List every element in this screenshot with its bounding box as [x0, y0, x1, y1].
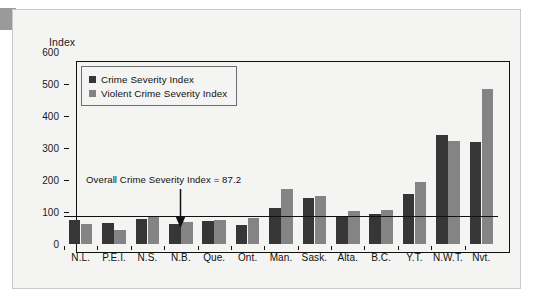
- y-axis-tick-label: 400: [29, 111, 59, 122]
- x-axis-tick-mark: [431, 246, 432, 250]
- x-axis-tick-mark: [364, 246, 365, 250]
- bar: [214, 220, 226, 244]
- bar: [448, 141, 460, 244]
- x-axis-tick-label: Alta.: [338, 252, 359, 263]
- reference-line: [64, 216, 498, 217]
- x-axis-tick-label: P.E.I.: [102, 252, 126, 263]
- x-axis-tick-label: N.L.: [71, 252, 90, 263]
- x-axis-tick-label: Man.: [270, 252, 293, 263]
- y-axis-tick-label: 100: [29, 207, 59, 218]
- bar: [336, 217, 348, 244]
- x-axis-tick-mark: [231, 246, 232, 250]
- y-axis-tick-label: 500: [29, 79, 59, 90]
- bar: [148, 216, 160, 244]
- bar: [114, 230, 126, 244]
- figure-panel: Index 0100200300400500600 Overall Crime …: [12, 9, 521, 289]
- y-axis-tick-label: 600: [29, 47, 59, 58]
- legend-swatch-light: [89, 90, 96, 97]
- x-axis-tick-mark: [465, 246, 466, 250]
- x-axis-tick-mark: [164, 246, 165, 250]
- bar: [315, 196, 327, 244]
- x-axis-tick-mark: [398, 246, 399, 250]
- x-axis-labels: N.L.P.E.I.N.S.N.B.Que.Ont.Man.Sask.Alta.…: [64, 246, 498, 270]
- chart-legend: Crime Severity Index Violent Crime Sever…: [81, 66, 237, 106]
- x-axis-tick-label: N.W.T.: [433, 252, 463, 263]
- x-axis-tick-mark: [64, 246, 65, 250]
- y-axis-tick-mark: [64, 148, 69, 149]
- bar: [136, 219, 148, 244]
- y-axis-tick-label: 200: [29, 175, 59, 186]
- y-axis-tick-mark: [64, 84, 69, 85]
- x-axis-tick-mark: [97, 246, 98, 250]
- y-axis-tick-mark: [64, 180, 69, 181]
- x-axis-tick-mark: [198, 246, 199, 250]
- bar: [369, 214, 381, 244]
- chart-screenshot: Index 0100200300400500600 Overall Crime …: [0, 0, 534, 300]
- bar: [403, 194, 415, 244]
- x-axis-tick-mark: [131, 246, 132, 250]
- x-axis-tick-label: N.B.: [171, 252, 191, 263]
- bar: [248, 218, 260, 244]
- x-axis-tick-label: Ont.: [238, 252, 257, 263]
- x-axis-tick-label: Sask.: [302, 252, 328, 263]
- down-arrow-icon: [174, 189, 187, 233]
- y-axis-tick-label: 300: [29, 143, 59, 154]
- overall-index-annotation: Overall Crime Severity Index = 87.2: [86, 174, 241, 185]
- y-axis-tick-mark: [64, 116, 69, 117]
- bar: [415, 182, 427, 244]
- bar: [102, 223, 114, 244]
- x-axis-tick-label: Nvt.: [472, 252, 490, 263]
- bar: [381, 210, 393, 244]
- bar: [482, 89, 494, 244]
- x-axis-tick-mark: [331, 246, 332, 250]
- y-axis-tick-label: 0: [29, 239, 59, 250]
- x-axis-tick-mark: [298, 246, 299, 250]
- x-axis-tick-label: Y.T.: [406, 252, 422, 263]
- bar: [69, 220, 81, 244]
- x-axis-tick-label: B.C.: [371, 252, 391, 263]
- bar: [269, 208, 281, 244]
- y-axis-tick-labels: 0100200300400500600: [27, 52, 59, 244]
- x-axis-tick-label: Que.: [203, 252, 225, 263]
- x-axis-tick-mark: [264, 246, 265, 250]
- bar: [236, 225, 248, 244]
- x-axis-tick-label: N.S.: [138, 252, 158, 263]
- legend-item-crime-severity-index: Crime Severity Index: [89, 72, 227, 86]
- legend-swatch-dark: [89, 76, 96, 83]
- legend-label: Violent Crime Severity Index: [101, 88, 227, 99]
- y-axis-tick-mark: [64, 212, 69, 213]
- bar: [81, 224, 93, 244]
- bar: [303, 198, 315, 244]
- legend-item-violent-crime-severity-index: Violent Crime Severity Index: [89, 86, 227, 100]
- bar: [470, 142, 482, 244]
- bar: [436, 135, 448, 244]
- bar: [202, 221, 214, 244]
- legend-label: Crime Severity Index: [101, 74, 194, 85]
